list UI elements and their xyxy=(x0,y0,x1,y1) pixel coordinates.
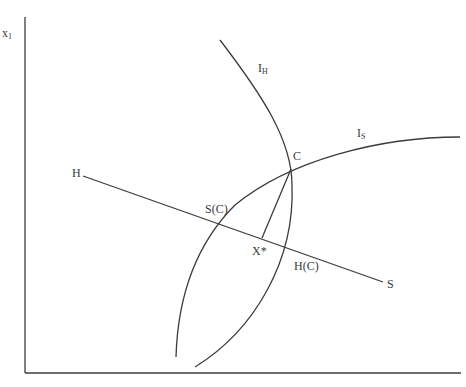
diagram-figure: x1 IH IS C H S S(C) X* H(C) xyxy=(0,0,466,387)
label-IS-sub: S xyxy=(361,132,365,141)
line-HS xyxy=(83,176,383,282)
y-axis-label: x1 xyxy=(2,27,12,41)
label-point-HC: H(C) xyxy=(294,260,319,272)
label-point-C: C xyxy=(293,150,301,162)
label-point-SC: S(C) xyxy=(205,203,228,215)
label-IH-sub: H xyxy=(262,67,268,76)
indifference-curve-IS xyxy=(176,137,460,357)
label-H: H xyxy=(72,167,81,179)
y-axis-label-sub: 1 xyxy=(8,32,12,41)
label-point-Xstar: X* xyxy=(252,245,267,257)
label-IH: IH xyxy=(258,62,268,76)
diagram-canvas xyxy=(0,0,466,387)
segment-C-Xstar xyxy=(262,169,291,238)
label-S: S xyxy=(387,278,394,290)
label-IS: IS xyxy=(357,127,365,141)
